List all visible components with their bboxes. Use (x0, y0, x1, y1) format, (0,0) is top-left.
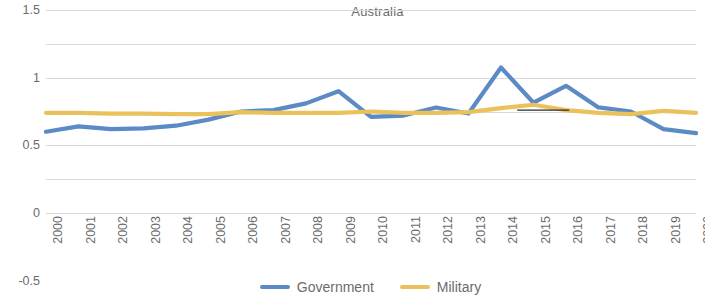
series-line-government (46, 68, 696, 134)
y-axis-tick-label: 0 (0, 206, 40, 220)
x-axis-tick-label: 2001 (84, 216, 98, 244)
x-axis-tick-label: 2010 (376, 216, 390, 244)
x-axis-tick-label: 2005 (214, 216, 228, 244)
x-axis-tick-label: 2015 (539, 216, 553, 244)
x-axis-tick-label: 2011 (409, 216, 423, 243)
gridline: -1.5 (46, 213, 696, 214)
x-axis-tick-label: 2017 (604, 216, 618, 244)
x-axis-tick-label: 2014 (506, 216, 520, 244)
x-axis-tick-label: 2009 (344, 216, 358, 244)
x-axis-tick-label: 2003 (149, 216, 163, 244)
line-swatch-yellow-icon (400, 285, 430, 289)
x-axis-tick-label: 2019 (669, 216, 683, 244)
y-axis-tick-label: 1 (0, 71, 40, 85)
x-axis-tick-label: 2013 (474, 216, 488, 244)
x-axis-tick-label: 2020 (701, 216, 705, 244)
x-axis-tick-label: 2012 (441, 216, 455, 244)
y-axis-tick-label: 0.5 (0, 138, 40, 152)
y-axis-tick-label: 1.5 (0, 3, 40, 17)
x-axis: 2000200120022003200420052006200720082009… (46, 216, 696, 272)
x-axis-tick-label: 2016 (571, 216, 585, 244)
line-swatch-blue-icon (260, 285, 290, 289)
x-axis-tick-label: 2006 (246, 216, 260, 244)
series-lines (46, 10, 696, 213)
x-axis-tick-label: 2007 (279, 216, 293, 244)
x-axis-tick-label: 2018 (636, 216, 650, 244)
x-axis-tick-label: 2008 (311, 216, 325, 244)
line-chart: Australia 1.510.50-0.5-1-1.5 20002001200… (0, 0, 705, 299)
chart-legend: GovernmentMilitary (18, 279, 705, 295)
x-axis-tick-label: 2002 (116, 216, 130, 244)
legend-item[interactable]: Government (260, 279, 374, 295)
x-axis-tick-label: 2004 (181, 216, 195, 244)
legend-label: Military (437, 279, 481, 295)
plot-area: 1.510.50-0.5-1-1.5 (46, 10, 696, 213)
x-axis-tick-label: 2000 (51, 216, 65, 244)
legend-item[interactable]: Military (400, 279, 481, 295)
legend-label: Government (297, 279, 374, 295)
